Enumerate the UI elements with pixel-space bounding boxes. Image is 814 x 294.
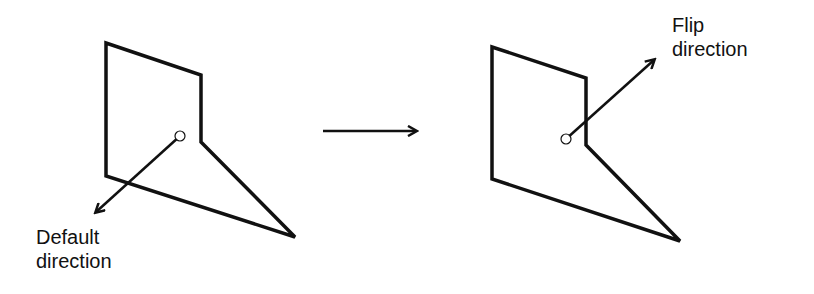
default-direction-arrow bbox=[96, 136, 180, 212]
right-panel bbox=[492, 47, 680, 241]
default-direction-label: Default direction bbox=[36, 225, 112, 273]
left-origin-circle bbox=[175, 131, 185, 141]
flip-direction-label-line1: Flip bbox=[672, 13, 748, 37]
flip-direction-arrow bbox=[566, 60, 654, 139]
default-direction-label-line1: Default bbox=[36, 225, 112, 249]
right-surface-shape bbox=[492, 47, 680, 241]
flip-direction-label: Flip direction bbox=[672, 13, 748, 61]
left-surface-shape bbox=[106, 43, 295, 237]
left-panel bbox=[96, 43, 295, 237]
flip-direction-label-line2: direction bbox=[672, 37, 748, 61]
default-direction-label-line2: direction bbox=[36, 249, 112, 273]
right-origin-circle bbox=[561, 134, 571, 144]
